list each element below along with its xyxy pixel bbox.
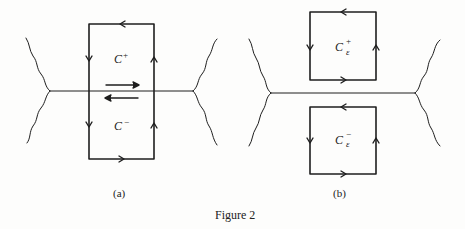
contour-label-c-plus: C+ xyxy=(114,50,128,66)
contour-label-c-eps-plus-sup: + xyxy=(346,36,351,46)
arrow-left-icon xyxy=(105,95,111,101)
contour-label-c-eps-minus-sup: − xyxy=(346,129,351,139)
contour-label-c-eps-minus: C xyxy=(335,133,344,147)
figure-canvas: C+ C− C + ε C − ε (a) (b) Figure 2 xyxy=(0,0,465,229)
figure-2: C+ C− C + ε C − ε (a) (b) Figure 2 xyxy=(0,0,465,229)
contour-label-c-minus: C− xyxy=(114,117,129,133)
contour-label-c-eps-plus-sub: ε xyxy=(346,47,350,57)
wavy-boundary-left-b xyxy=(249,39,271,146)
wavy-boundary-right-a xyxy=(193,39,217,145)
figure-caption: Figure 2 xyxy=(215,208,255,222)
panel-b xyxy=(249,9,440,177)
wavy-boundary-right-b xyxy=(415,40,440,146)
contour-label-c-eps-plus: C xyxy=(335,40,344,54)
panel-label-b: (b) xyxy=(333,187,346,200)
arrow-right-icon xyxy=(133,82,139,88)
panel-label-a: (a) xyxy=(113,187,126,200)
contour-label-c-eps-minus-sub: ε xyxy=(346,139,350,149)
wavy-boundary-left-a xyxy=(26,38,50,143)
panel-a xyxy=(26,21,217,162)
